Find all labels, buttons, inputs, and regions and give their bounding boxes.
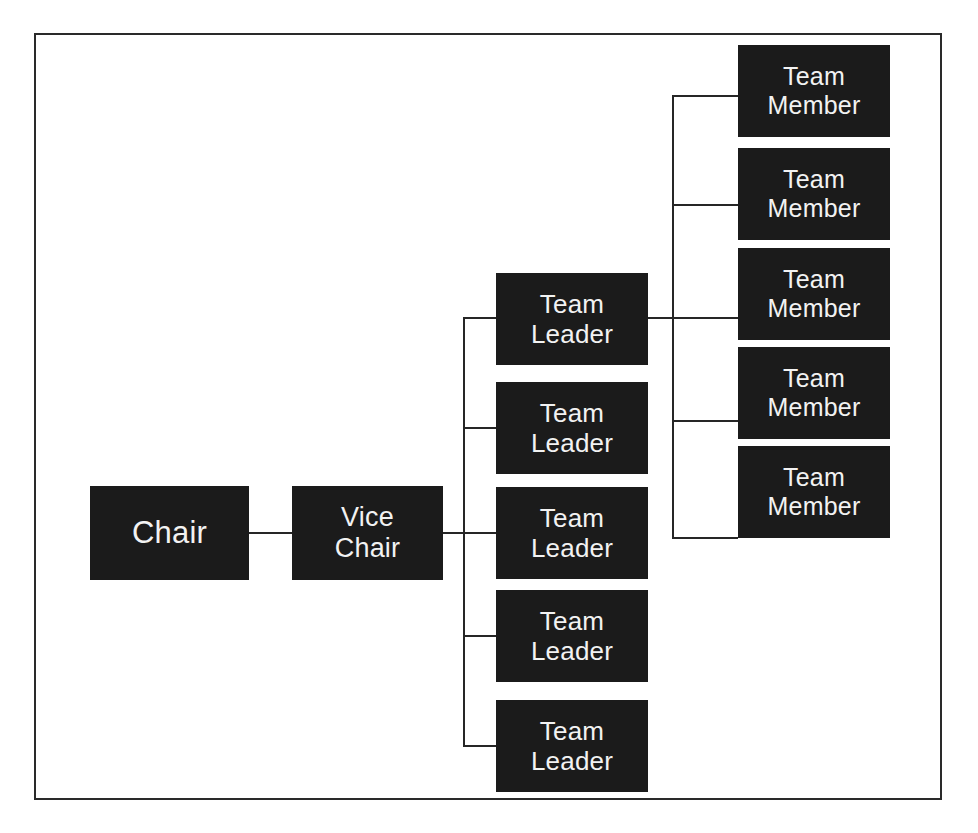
org-chart-canvas: Chair Vice Chair Team Leader Team Leader… [0,0,978,833]
node-team-leader-2-label: Team Leader [496,398,648,458]
node-team-leader-5[interactable]: Team Leader [496,700,648,792]
node-team-leader-5-label: Team Leader [496,716,648,776]
connector-tl-branch-2 [463,427,497,429]
node-team-member-5[interactable]: Team Member [738,446,890,538]
connector-tm-branch-5 [672,537,738,539]
connector-tl-branch-4 [463,635,497,637]
node-chair-label: Chair [90,515,249,551]
node-team-member-3[interactable]: Team Member [738,248,890,340]
connector-tm-branch-3 [672,317,738,319]
node-chair[interactable]: Chair [90,486,249,580]
diagram-frame: Chair Vice Chair Team Leader Team Leader… [34,33,942,800]
node-team-member-1[interactable]: Team Member [738,45,890,137]
connector-tm-branch-1 [672,95,738,97]
node-team-leader-3[interactable]: Team Leader [496,487,648,579]
node-team-member-3-label: Team Member [738,265,890,323]
node-team-leader-4[interactable]: Team Leader [496,590,648,682]
node-team-member-1-label: Team Member [738,62,890,120]
node-team-member-2[interactable]: Team Member [738,148,890,240]
node-vice-chair-label: Vice Chair [292,502,443,565]
node-team-leader-4-label: Team Leader [496,606,648,666]
node-team-member-2-label: Team Member [738,165,890,223]
node-vice-chair[interactable]: Vice Chair [292,486,443,580]
node-team-member-5-label: Team Member [738,463,890,521]
connector-tl-branch-3 [463,532,497,534]
connector-tm-branch-4 [672,420,738,422]
connector-tl-branch-5 [463,745,497,747]
connector-tm-branch-2 [672,204,738,206]
node-team-leader-1[interactable]: Team Leader [496,273,648,365]
node-team-leader-2[interactable]: Team Leader [496,382,648,474]
node-team-leader-3-label: Team Leader [496,503,648,563]
node-team-member-4[interactable]: Team Member [738,347,890,439]
connector-tl-branch-1 [463,317,497,319]
connector-chair-to-vice-chair [249,532,292,534]
connector-tm-spine [672,95,674,537]
node-team-member-4-label: Team Member [738,364,890,422]
node-team-leader-1-label: Team Leader [496,289,648,349]
